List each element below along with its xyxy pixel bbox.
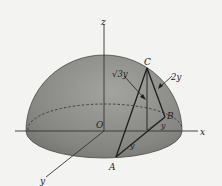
ab-length-label: y — [129, 141, 135, 150]
point-C-label: C — [144, 57, 151, 67]
b-offset-label: y — [160, 121, 166, 130]
z-axis-label: z — [100, 17, 106, 27]
origin-label: O — [96, 120, 104, 130]
height-label: √3y — [112, 69, 128, 79]
y-axis-label: y — [39, 176, 46, 186]
diagram-svg: z x y O C B A √3y 2y y y — [0, 0, 222, 186]
x-axis-label: x — [200, 127, 205, 137]
point-A-label: A — [108, 162, 116, 172]
hemisphere-diagram: z x y O C B A √3y 2y y y — [0, 0, 222, 186]
point-B-label: B — [166, 111, 174, 121]
slant-edge-label: 2y — [170, 72, 181, 82]
